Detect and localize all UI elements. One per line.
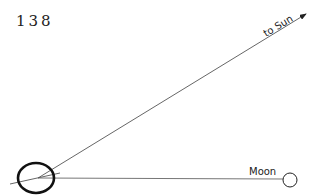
moon-direction-line	[38, 178, 283, 179]
sun-label: to Sun	[261, 13, 294, 39]
sun-direction-line	[38, 14, 306, 178]
moon-label: Moon	[249, 166, 276, 177]
earth-moon-sun-diagram: to Sun Moon	[0, 0, 313, 195]
moon-icon	[283, 173, 297, 187]
